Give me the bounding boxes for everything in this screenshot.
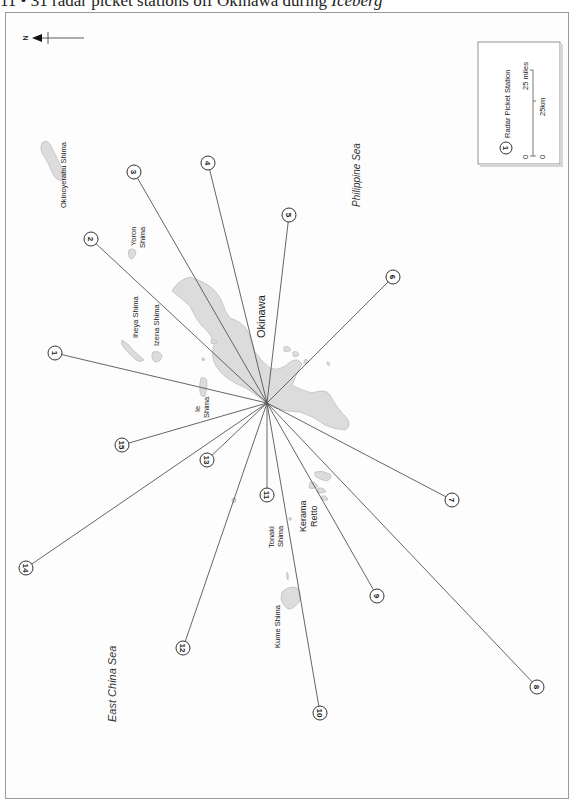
station-number: 15: [117, 441, 126, 450]
station-number: 6: [388, 275, 397, 280]
scale-km-label: 25km: [538, 98, 547, 116]
kerama-label-2: Retto: [309, 505, 319, 527]
okinawa-label: Okinawa: [255, 294, 267, 338]
station-number: 12: [178, 644, 187, 653]
legend-station-number: 1: [501, 146, 510, 151]
iheya-label: Iheya Shima: [131, 295, 140, 338]
yoron-island: [128, 249, 136, 259]
station-number: 10: [315, 709, 324, 718]
station-11[interactable]: 11: [260, 488, 274, 502]
legend: 1 Radar Picket Station 0 25 miles 0 25km: [478, 42, 563, 167]
station-number: 1: [50, 351, 59, 356]
station-number: 8: [532, 685, 541, 690]
scale-miles-label: 25 miles: [521, 62, 530, 90]
station-4[interactable]: 4: [201, 156, 215, 170]
station-7[interactable]: 7: [445, 493, 459, 507]
scale-miles-zero: 0: [521, 155, 530, 159]
ie-label-1: Ie: [193, 406, 202, 412]
station-number: 13: [202, 456, 211, 465]
scale-km-zero: 0: [538, 155, 547, 159]
station-14[interactable]: 14: [19, 561, 33, 575]
station-12[interactable]: 12: [176, 641, 190, 655]
land-masses: [41, 141, 349, 609]
station-number: 14: [21, 564, 30, 573]
okinoyerabu-label: Okinoyerabu Shima: [59, 141, 68, 208]
station-5[interactable]: 5: [282, 208, 296, 222]
tonaki-label-2: Shima: [276, 525, 285, 547]
station-3[interactable]: 3: [127, 165, 141, 179]
station-number: 2: [86, 237, 95, 242]
izena-label: Izena Shima: [152, 303, 161, 346]
station-number: 5: [284, 213, 293, 218]
station-number: 11: [262, 491, 271, 500]
north-label: N: [22, 35, 29, 40]
north-arrow-icon: N: [22, 32, 84, 44]
station-number: 4: [203, 161, 212, 166]
philippine-sea-label: Philippine Sea: [351, 143, 362, 207]
station-15[interactable]: 15: [115, 438, 129, 452]
iheya-island: [121, 340, 144, 362]
station-number: 9: [372, 594, 381, 599]
kume-label: Kume Shima: [273, 604, 282, 648]
station-8[interactable]: 8: [530, 680, 544, 694]
station-number: 7: [447, 498, 456, 503]
east-china-sea-label: East China Sea: [106, 646, 118, 722]
station-10[interactable]: 10: [313, 706, 327, 720]
station-13[interactable]: 13: [200, 453, 214, 467]
kerama-label-1: Kerama: [298, 500, 308, 532]
map-canvas: N: [0, 0, 573, 807]
station-1[interactable]: 1: [48, 346, 62, 360]
kerama-islands: [315, 471, 331, 481]
izena-island: [152, 352, 162, 363]
kume-island: [281, 587, 300, 609]
yoron-label-1: Yoron: [129, 227, 138, 246]
legend-station-label: Radar Picket Station: [503, 70, 512, 138]
station-6[interactable]: 6: [386, 270, 400, 284]
tonaki-label-1: Tonaki: [267, 526, 276, 548]
ie-label-2: Shima: [202, 396, 211, 418]
station-number: 3: [129, 170, 138, 175]
station-2[interactable]: 2: [84, 232, 98, 246]
station-9[interactable]: 9: [370, 589, 384, 603]
yoron-label-2: Shima: [138, 226, 147, 248]
